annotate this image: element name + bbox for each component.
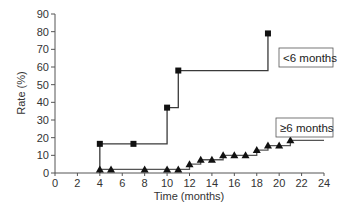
step-chart: 0246810121416182022240102030405060708090… — [0, 0, 349, 211]
series-line-0 — [100, 33, 268, 173]
y-tick-label: 50 — [37, 79, 49, 91]
square-marker — [164, 105, 170, 111]
y-tick-label: 80 — [37, 26, 49, 38]
square-marker — [175, 68, 181, 74]
x-tick-label: 14 — [206, 177, 218, 189]
y-tick-label: 0 — [43, 167, 49, 179]
y-tick-label: 60 — [37, 61, 49, 73]
x-tick-label: 20 — [273, 177, 285, 189]
square-marker — [130, 141, 136, 147]
legend-lt6-label: <6 months — [283, 52, 337, 64]
y-tick-label: 20 — [37, 132, 49, 144]
x-tick-label: 24 — [318, 177, 330, 189]
x-tick-label: 18 — [251, 177, 263, 189]
y-tick-label: 90 — [37, 8, 49, 20]
y-tick-label: 40 — [37, 96, 49, 108]
square-marker — [265, 30, 271, 36]
legend-ge6: ≥6 months — [276, 118, 334, 137]
x-tick-label: 2 — [74, 177, 80, 189]
x-tick-label: 8 — [142, 177, 148, 189]
markers — [96, 30, 295, 172]
square-marker — [97, 141, 103, 147]
legend-lt6: <6 months — [279, 48, 337, 67]
axes: 0246810121416182022240102030405060708090 — [37, 8, 330, 189]
x-tick-label: 6 — [119, 177, 125, 189]
x-tick-label: 0 — [52, 177, 58, 189]
y-tick-label: 70 — [37, 43, 49, 55]
y-tick-label: 30 — [37, 114, 49, 126]
y-axis-title: Rate (%) — [15, 71, 27, 114]
x-tick-label: 16 — [228, 177, 240, 189]
x-tick-label: 12 — [183, 177, 195, 189]
x-tick-label: 10 — [161, 177, 173, 189]
legend-ge6-label: ≥6 months — [280, 122, 334, 134]
x-tick-label: 4 — [97, 177, 103, 189]
x-axis-title: Time (months) — [154, 190, 225, 202]
x-tick-label: 22 — [295, 177, 307, 189]
y-tick-label: 10 — [37, 149, 49, 161]
